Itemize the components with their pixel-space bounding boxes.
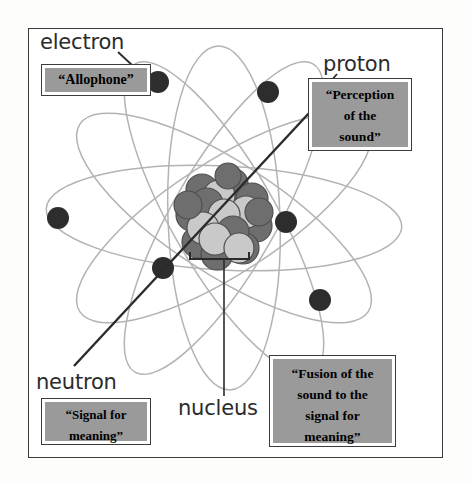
leader-line-neutron-proton — [74, 112, 310, 366]
callout-line: sound” — [312, 126, 408, 147]
callout-fusion: “Fusion of thesound to thesignal formean… — [269, 355, 396, 447]
callout-line: “Perception — [312, 84, 408, 105]
callout-line: meaning” — [273, 426, 392, 447]
label-proton: proton — [323, 54, 391, 75]
nucleon — [215, 163, 241, 189]
callout-signal-text: “Signal formeaning” — [45, 402, 147, 441]
label-electron: electron — [40, 32, 124, 53]
callout-allophone-text: “Allophone” — [45, 68, 147, 92]
nucleon — [174, 191, 202, 219]
callout-line: “Fusion of the — [273, 363, 392, 384]
electron-dot — [309, 289, 331, 311]
label-nucleus: nucleus — [178, 398, 258, 419]
electron-dot — [275, 211, 297, 233]
callout-line: “Signal for — [45, 404, 147, 425]
callout-line: “Allophone” — [45, 68, 147, 92]
electron-dot — [47, 207, 69, 229]
nucleus-cluster — [174, 163, 273, 270]
electron-dot — [257, 81, 279, 103]
callout-line: of the — [312, 105, 408, 126]
callout-allophone: “Allophone” — [41, 64, 151, 96]
callout-line: meaning” — [45, 425, 147, 446]
callout-fusion-text: “Fusion of thesound to thesignal formean… — [273, 359, 392, 443]
callout-line: sound to the — [273, 384, 392, 405]
callout-perception-text: “Perceptionof thesound” — [312, 82, 408, 147]
nucleon — [245, 198, 273, 226]
label-neutron: neutron — [36, 372, 117, 393]
figure-canvas: electron proton neutron nucleus “Allopho… — [0, 0, 472, 484]
callout-signal: “Signal formeaning” — [41, 398, 151, 445]
callout-perception: “Perceptionof thesound” — [308, 78, 412, 151]
callout-line: signal for — [273, 405, 392, 426]
